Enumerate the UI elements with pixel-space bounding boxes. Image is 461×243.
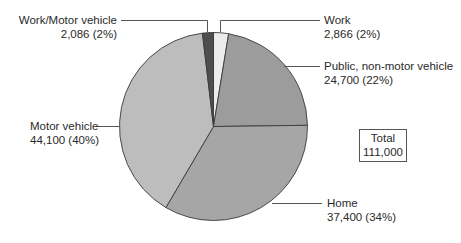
label-value: 2,866 (2%): [324, 27, 380, 41]
label-value: 37,400 (34%): [327, 210, 396, 224]
label-motor-vehicle: Motor vehicle 44,100 (40%): [30, 119, 99, 147]
leader-line-work: [221, 21, 321, 33]
total-value: 111,000: [360, 145, 406, 159]
label-name: Work/Motor vehicle: [19, 13, 117, 27]
label-work-motor-vehicle: Work/Motor vehicle 2,086 (2%): [19, 13, 117, 41]
pie-slices: [119, 32, 307, 220]
pie-slice-public-non-motor-vehicle: [214, 34, 308, 127]
label-value: 44,100 (40%): [30, 133, 99, 147]
leader-line-work-motor: [121, 21, 208, 33]
label-name: Home: [327, 196, 396, 210]
label-work: Work 2,866 (2%): [324, 13, 380, 41]
label-home: Home 37,400 (34%): [327, 196, 396, 224]
total-label: Total: [360, 131, 406, 145]
label-name: Public, non-motor vehicle: [324, 59, 453, 73]
label-public-non-motor-vehicle: Public, non-motor vehicle 24,700 (22%): [324, 59, 453, 87]
label-name: Motor vehicle: [30, 119, 99, 133]
label-name: Work: [324, 13, 380, 27]
label-value: 24,700 (22%): [324, 73, 453, 87]
label-value: 2,086 (2%): [19, 27, 117, 41]
total-box: Total 111,000: [359, 129, 407, 162]
